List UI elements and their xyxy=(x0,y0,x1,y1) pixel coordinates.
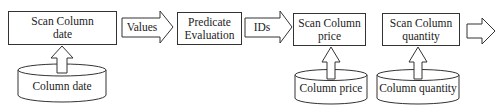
scan-price-line2: price xyxy=(298,30,360,43)
scan-column-quantity-box: Scan Column quantity xyxy=(382,13,460,46)
scan-quantity-line2: quantity xyxy=(390,30,452,43)
values-arrow-label: Values xyxy=(124,21,160,34)
scan-quantity-line1: Scan Column xyxy=(390,17,452,30)
scan-column-price-box: Scan Column price xyxy=(293,13,366,46)
ids-arrow-label: IDs xyxy=(247,21,277,34)
column-date-label: Column date xyxy=(18,80,106,93)
column-quantity-label: Column quantity xyxy=(377,82,459,95)
column-price-label: Column price xyxy=(295,82,367,95)
predicate-line2: Evaluation xyxy=(185,29,235,42)
predicate-evaluation-box: Predicate Evaluation xyxy=(177,12,242,45)
query-plan-diagram: Scan Column date Predicate Evaluation Sc… xyxy=(0,0,498,109)
predicate-line1: Predicate xyxy=(185,16,235,29)
scan-price-line1: Scan Column xyxy=(298,17,360,30)
scan-column-date-box: Scan Column date xyxy=(8,11,117,45)
scan-date-line1: Scan Column xyxy=(31,15,93,28)
scan-date-line2: date xyxy=(31,28,93,41)
output-arrow-icon xyxy=(467,18,495,44)
